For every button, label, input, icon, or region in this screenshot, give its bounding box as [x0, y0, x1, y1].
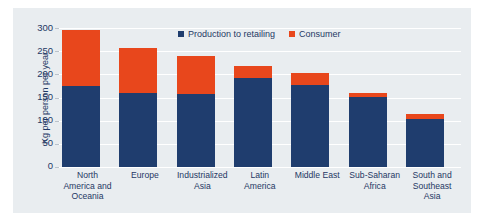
bar-segment-consumer [62, 30, 100, 86]
x-label-line: South and [397, 170, 468, 181]
bar-segment-production [119, 93, 157, 167]
x-label-south-and-southeast-asia: South and Southeast Asia [397, 170, 468, 202]
bar-segment-consumer [234, 66, 272, 78]
bar-segment-production [406, 119, 444, 167]
y-tick-label: 100 [9, 114, 53, 125]
x-label-line: Asia [397, 191, 468, 202]
y-tick-label: 50 [9, 137, 53, 148]
bar-segment-consumer [291, 73, 329, 85]
chart-figure: Kg per person per year 300 250 200 150 1… [0, 0, 484, 221]
legend-item-production[interactable]: Production to retailing [178, 29, 275, 39]
y-tick-label: 300 [9, 22, 53, 33]
bar-segment-production [177, 94, 215, 167]
y-axis-ticks: 300 250 200 150 100 50 0 [9, 28, 55, 167]
bar-middle-east[interactable] [291, 28, 329, 167]
x-axis-line [59, 167, 461, 168]
bar-sub-saharan-africa[interactable] [349, 28, 387, 167]
bar-segment-consumer [349, 93, 387, 97]
bar-segment-production [62, 86, 100, 167]
square-icon [289, 31, 295, 37]
x-label-line: Oceania [52, 191, 123, 202]
y-tick-label: 250 [9, 45, 53, 56]
bar-segment-production [349, 97, 387, 167]
bar-segment-consumer [406, 114, 444, 119]
x-label-line: America [224, 181, 295, 192]
x-label-line: Southeast [397, 181, 468, 192]
legend-item-consumer[interactable]: Consumer [289, 29, 341, 39]
bar-segment-production [291, 85, 329, 167]
chart-legend: Production to retailing Consumer [178, 29, 341, 39]
bar-north-america-and-oceania[interactable] [62, 28, 100, 167]
y-tick-label: 0 [9, 160, 53, 171]
bar-latin-america[interactable] [234, 28, 272, 167]
legend-label-consumer: Consumer [299, 29, 341, 39]
bar-group [59, 28, 461, 167]
square-icon [178, 31, 184, 37]
y-tick-label: 200 [9, 68, 53, 79]
bar-industrialized-asia[interactable] [177, 28, 215, 167]
bar-europe[interactable] [119, 28, 157, 167]
bar-segment-consumer [119, 48, 157, 93]
x-label-line: America and [52, 181, 123, 192]
bar-segment-production [234, 78, 272, 167]
x-axis-labels: North America and Oceania Europe Industr… [59, 170, 461, 214]
bar-segment-consumer [177, 56, 215, 94]
legend-label-production: Production to retailing [188, 29, 275, 39]
y-tick-label: 150 [9, 91, 53, 102]
bar-south-and-southeast-asia[interactable] [406, 28, 444, 167]
